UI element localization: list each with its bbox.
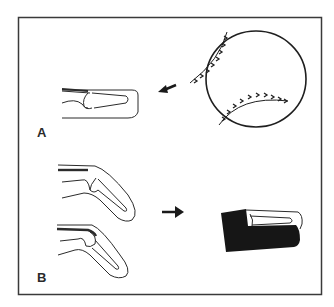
arrow-right-icon	[162, 206, 184, 218]
panel-a-finger	[62, 89, 138, 118]
arrow-left-icon	[158, 85, 176, 93]
splint	[221, 209, 300, 252]
splinted-finger	[221, 209, 302, 252]
panel-b-finger-upper	[58, 165, 135, 221]
baseball-icon	[190, 31, 306, 127]
panel-label-b: B	[37, 270, 46, 285]
mallet-finger-diagram	[0, 0, 334, 307]
panel-b-finger-lower	[57, 225, 128, 278]
panel-label-a: A	[37, 125, 46, 140]
